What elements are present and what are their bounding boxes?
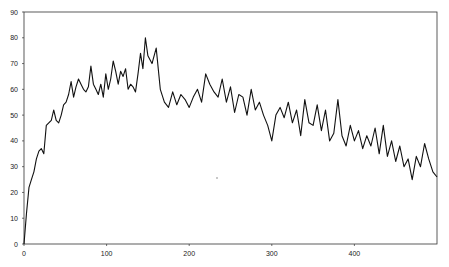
- y-tick-label: 20: [10, 189, 18, 196]
- y-tick-label: 40: [10, 137, 18, 144]
- y-tick-label: 30: [10, 163, 18, 170]
- y-tick-label: 0: [14, 241, 18, 248]
- x-tick-label: 200: [183, 250, 195, 257]
- x-axis: 0100200300400: [22, 244, 360, 257]
- y-tick-label: 80: [10, 34, 18, 41]
- line-chart: 0102030405060708090 0100200300400: [0, 0, 449, 267]
- x-tick-label: 0: [22, 250, 26, 257]
- y-axis: 0102030405060708090: [10, 9, 24, 248]
- x-tick-label: 300: [266, 250, 278, 257]
- x-tick-label: 100: [101, 250, 113, 257]
- y-tick-label: 50: [10, 112, 18, 119]
- x-tick-label: 400: [349, 250, 361, 257]
- y-tick-label: 10: [10, 215, 18, 222]
- stray-dot: [216, 177, 217, 178]
- y-tick-label: 60: [10, 86, 18, 93]
- y-tick-label: 90: [10, 9, 18, 16]
- y-tick-label: 70: [10, 60, 18, 67]
- data-line: [24, 38, 437, 244]
